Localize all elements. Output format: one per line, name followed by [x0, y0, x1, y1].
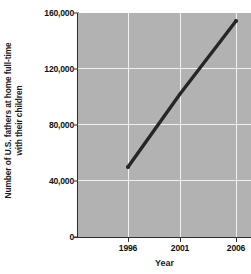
data-series-line [78, 13, 251, 237]
y-tick-label-40000: 40,000 [22, 176, 74, 186]
x-tick-mark-1996 [128, 238, 129, 242]
y-axis-line [77, 13, 78, 238]
x-tick-label-2006: 2006 [227, 243, 245, 253]
chart-figure: Number of U.S. fathers at home full-time… [0, 0, 251, 274]
y-axis-ticks: 0 40,000 80,000 120,000 160,000 [20, 0, 74, 274]
y-tick-label-160000: 160,000 [22, 8, 74, 18]
x-axis-line [74, 237, 251, 238]
x-tick-label-1996: 1996 [119, 243, 137, 253]
x-tick-mark-2001 [180, 238, 181, 242]
x-tick-mark-2006 [236, 238, 237, 242]
x-axis-title: Year [78, 258, 251, 268]
plot-area [78, 13, 251, 237]
y-tick-label-120000: 120,000 [22, 64, 74, 74]
y-tick-label-80000: 80,000 [22, 120, 74, 130]
y-axis-title-line1: Number of U.S. fathers at home full-time [3, 42, 13, 198]
y-tick-label-0: 0 [22, 232, 74, 242]
x-tick-label-2001: 2001 [171, 243, 189, 253]
